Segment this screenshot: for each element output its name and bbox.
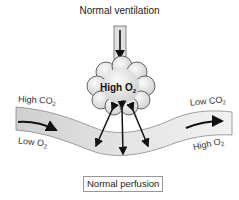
normal-perfusion-label: Normal perfusion — [83, 176, 163, 192]
normal-ventilation-label: Normal ventilation — [0, 6, 239, 16]
high-co2-left-label: High CO2 — [18, 95, 56, 107]
alveolus-high-o2-label: High O2 — [100, 83, 136, 94]
